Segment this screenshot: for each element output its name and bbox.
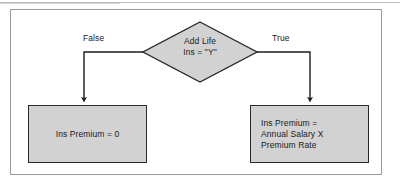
decision-line-2: Ins = "Y" (143, 47, 257, 58)
flowchart-figure: Add Life Ins = "Y" False True Ins Premiu… (0, 0, 400, 188)
page-top-rule-secondary (0, 3, 120, 4)
true-branch-label: True (272, 33, 290, 43)
process-box-true-label: Ins Premium = Annual Salary X Premium Ra… (261, 118, 323, 151)
decision-line-1: Add Life (143, 36, 257, 47)
decision-node-label: Add Life Ins = "Y" (143, 36, 257, 57)
true-box-line-2: Annual Salary X (261, 129, 323, 140)
false-box-line-1: Ins Premium = 0 (56, 129, 120, 140)
process-box-true-branch: Ins Premium = Annual Salary X Premium Ra… (250, 105, 369, 163)
true-box-line-1: Ins Premium = (261, 118, 323, 129)
process-box-false-label: Ins Premium = 0 (56, 129, 120, 140)
process-box-false-branch: Ins Premium = 0 (28, 105, 147, 163)
true-box-line-3: Premium Rate (261, 140, 323, 151)
false-branch-label: False (83, 33, 104, 43)
decision-node: Add Life Ins = "Y" (143, 22, 257, 82)
